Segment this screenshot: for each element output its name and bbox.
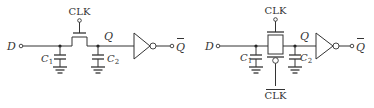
input-d-label: D xyxy=(6,40,16,53)
clk-label: CLK xyxy=(265,5,287,16)
right-circuit: D C1 CLK CLK xyxy=(204,5,365,101)
c2-label: C2 xyxy=(300,52,312,65)
q-label: Q xyxy=(104,30,113,43)
inverter-icon xyxy=(134,33,174,59)
ground-icon xyxy=(91,67,105,73)
circuit-diagrams: D C1 CLK Q xyxy=(0,0,374,108)
input-terminal xyxy=(19,44,23,48)
inversion-bubble xyxy=(273,58,279,64)
transmission-gate xyxy=(267,18,284,86)
clk-terminal xyxy=(274,18,278,22)
inverter-icon xyxy=(316,33,354,59)
c2-label: C2 xyxy=(107,53,119,66)
input-terminal xyxy=(216,44,220,48)
output-terminal xyxy=(350,44,354,48)
clk-bar-label: CLK xyxy=(265,90,287,101)
q-label: Q xyxy=(300,30,309,43)
input-d-label: D xyxy=(204,40,214,53)
clk-terminal xyxy=(78,19,82,23)
capacitor-c2 xyxy=(92,46,104,67)
nmos-transistor xyxy=(72,19,87,46)
c1-label: C1 xyxy=(41,53,53,66)
q-bar-label: Q xyxy=(356,41,365,54)
capacitor-c1 xyxy=(54,46,66,67)
clk-label: CLK xyxy=(69,6,91,17)
ground-icon xyxy=(249,67,263,73)
output-terminal xyxy=(170,44,174,48)
q-bar-label: Q xyxy=(176,41,185,54)
ground-icon xyxy=(288,67,302,73)
c1-label: C1 xyxy=(240,52,252,65)
ground-icon xyxy=(53,67,67,73)
left-circuit: D C1 CLK Q xyxy=(6,6,185,73)
